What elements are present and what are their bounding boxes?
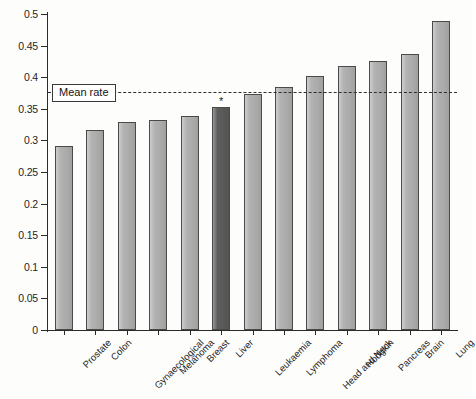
- bar-head-and-neck[interactable]: [306, 76, 324, 330]
- y-tick-mark: [41, 298, 48, 299]
- y-tick-label: 0.35: [2, 103, 38, 115]
- x-tick-mark: [127, 330, 128, 335]
- mean-rate-label: Mean rate: [52, 84, 116, 102]
- bar-colon[interactable]: [86, 130, 104, 330]
- y-tick-mark: [41, 109, 48, 110]
- y-tick-mark: [41, 267, 48, 268]
- bar-breast[interactable]: [181, 116, 199, 330]
- bar-lung[interactable]: [432, 21, 450, 330]
- bar-hodgkin[interactable]: [338, 66, 356, 330]
- y-tick-label: 0.3: [2, 134, 38, 146]
- x-tick-mark: [378, 330, 379, 335]
- x-label-lung: Lung: [453, 337, 476, 360]
- x-tick-mark: [347, 330, 348, 335]
- bar-liver[interactable]: *: [212, 107, 230, 330]
- y-axis-tick-labels: 00.050.10.150.20.250.30.350.40.450.5: [0, 0, 38, 399]
- bar-brain[interactable]: [401, 54, 419, 330]
- y-tick-mark: [41, 235, 48, 236]
- x-label-hodgkin: Hodgkin: [363, 337, 395, 369]
- y-tick-mark: [41, 140, 48, 141]
- x-label-colon: Colon: [108, 337, 133, 362]
- y-tick-mark: [41, 172, 48, 173]
- x-tick-mark: [284, 330, 285, 335]
- x-tick-mark: [410, 330, 411, 335]
- y-tick-mark: [41, 330, 48, 331]
- y-tick-label: 0.1: [2, 261, 38, 273]
- y-tick-label: 0.05: [2, 292, 38, 304]
- y-tick-label: 0: [2, 324, 38, 336]
- y-tick-label: 0.15: [2, 229, 38, 241]
- x-label-liver: Liver: [233, 337, 255, 359]
- x-tick-mark: [190, 330, 191, 335]
- x-tick-mark: [315, 330, 316, 335]
- bar-prostate[interactable]: [55, 146, 73, 330]
- y-tick-label: 0.4: [2, 71, 38, 83]
- x-tick-mark: [221, 330, 222, 335]
- y-tick-label: 0.2: [2, 198, 38, 210]
- bar-lymphoma[interactable]: [275, 87, 293, 330]
- y-tick-label: 0.25: [2, 166, 38, 178]
- x-label-gynaecological: Gynaecological: [152, 337, 206, 391]
- plot-area: *: [48, 14, 457, 330]
- bar-gynaecological[interactable]: [118, 122, 136, 330]
- y-tick-label: 0.45: [2, 40, 38, 52]
- y-tick-mark: [41, 14, 48, 15]
- bar-leukaemia[interactable]: [244, 94, 262, 330]
- x-tick-mark: [441, 330, 442, 335]
- x-tick-mark: [95, 330, 96, 335]
- x-tick-mark: [158, 330, 159, 335]
- x-tick-mark: [64, 330, 65, 335]
- y-tick-mark: [41, 77, 48, 78]
- y-tick-label: 0.5: [2, 8, 38, 20]
- x-tick-mark: [253, 330, 254, 335]
- significance-marker: *: [219, 96, 223, 106]
- y-tick-mark: [41, 204, 48, 205]
- bar-pancreas[interactable]: [369, 61, 387, 330]
- y-tick-mark: [41, 46, 48, 47]
- bar-melanoma[interactable]: [149, 120, 167, 330]
